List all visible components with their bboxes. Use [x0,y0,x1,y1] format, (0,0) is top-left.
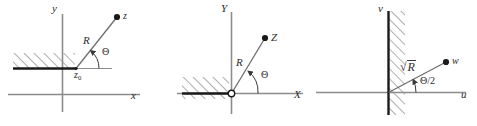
axis-label-Y: Y [221,3,227,14]
angle-arc-theta [91,51,100,69]
point-label-z0: z0 [74,70,81,81]
axis-label-y: y [52,3,57,14]
barrier-hatch-region [13,53,75,69]
angle-label-theta-half: Θ/2 [420,76,435,86]
sqrt-group: √R [400,60,416,73]
axis-label-u: u [461,89,467,100]
point-z [114,14,120,20]
point-label-z0-subscript: 0 [78,74,81,81]
radicand-R: R [407,60,416,73]
point-label-w: w [452,56,459,66]
radical-sign-icon: √ [400,60,407,74]
ray-label-R: R [83,35,90,46]
panel-Z-plane-graphic [155,0,310,126]
angle-arc-theta-half [413,80,416,93]
figure-three-panel-conformal-map: y x z R Θ z0 [0,0,477,126]
panel-z-plane-graphic [0,0,155,126]
ray-label-R: R [236,57,243,68]
axis-label-x: x [131,90,136,101]
origin-open-circle [228,90,234,96]
axis-label-X: X [294,89,301,100]
barrier-hatch-region [182,77,229,99]
point-label-Z: Z [271,32,277,43]
angle-label-theta: Θ [102,47,109,57]
point-Z [262,35,268,41]
panel-z-plane: y x z R Θ z0 [0,0,155,126]
ray-label-sqrt-R: √R [400,60,416,73]
axis-label-v: v [378,3,383,14]
panel-Z-plane: Y X Z R Θ [155,0,310,126]
panel-w-plane: v u w √R Θ/2 [310,0,477,126]
angle-arc-theta [248,71,258,94]
point-label-z: z [123,11,127,21]
point-w [443,59,449,65]
angle-label-theta: Θ [261,70,268,80]
